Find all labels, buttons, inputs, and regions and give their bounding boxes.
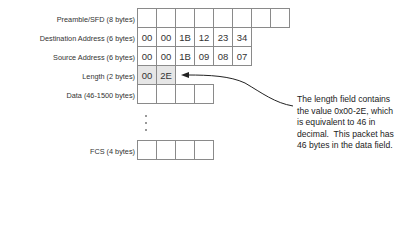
annotation-line: decimal. This packet has: [297, 129, 417, 141]
annotation-line: 46 bytes in the data field.: [297, 140, 417, 152]
annotation-line: The length field contains: [297, 94, 417, 106]
annotation-text: The length field contains the value 0x00…: [297, 94, 417, 152]
annotation-line: the value 0x00-2E, which: [297, 106, 417, 118]
annotation-line: is equivalent to 46 in: [297, 117, 417, 129]
